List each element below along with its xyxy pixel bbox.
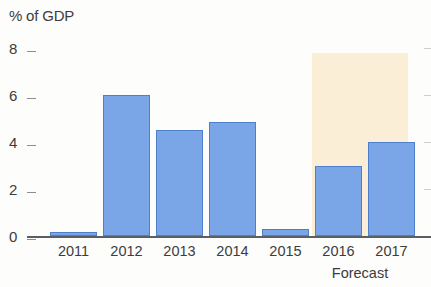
y-tick-8: 8 (9, 39, 36, 57)
x-axis-label-2016: 2016 (315, 243, 362, 259)
bar-2015[interactable] (262, 229, 309, 236)
edge-tick-stub-6 (424, 95, 431, 96)
y-tick-label-4: 4 (9, 134, 22, 151)
x-axis-label-2011: 2011 (50, 243, 97, 259)
forecast-annotation-label: Forecast (310, 265, 410, 281)
x-axis-label-2017: 2017 (368, 243, 415, 259)
bar-2012[interactable] (103, 95, 150, 236)
x-axis-label-2014: 2014 (209, 243, 256, 259)
bar-2017[interactable] (368, 142, 415, 236)
bar-2016[interactable] (315, 166, 362, 236)
bar-chart: % of GDP 8 6 4 2 0 (0, 0, 431, 287)
y-tick-label-0: 0 (9, 228, 22, 245)
edge-tick-stub-2 (424, 189, 431, 190)
x-axis-label-2013: 2013 (156, 243, 203, 259)
x-axis-line (27, 236, 431, 238)
x-axis-label-2015: 2015 (262, 243, 309, 259)
y-tick-dash-2 (27, 192, 36, 193)
y-tick-4: 4 (9, 133, 36, 151)
y-tick-label-6: 6 (9, 87, 22, 104)
y-tick-dash-4 (27, 145, 36, 146)
y-tick-6: 6 (9, 86, 36, 104)
edge-tick-stub-8 (424, 48, 431, 49)
plot-area: 8 6 4 2 0 (0, 0, 431, 287)
y-tick-label-2: 2 (9, 181, 22, 198)
y-tick-2: 2 (9, 180, 36, 198)
bar-2013[interactable] (156, 130, 203, 236)
x-axis-label-2012: 2012 (103, 243, 150, 259)
bar-2014[interactable] (209, 122, 256, 236)
y-tick-dash-6 (27, 98, 36, 99)
edge-tick-stub-4 (424, 142, 431, 143)
y-tick-label-8: 8 (9, 40, 22, 57)
y-tick-dash-0 (27, 239, 36, 240)
y-tick-dash-8 (27, 51, 36, 52)
